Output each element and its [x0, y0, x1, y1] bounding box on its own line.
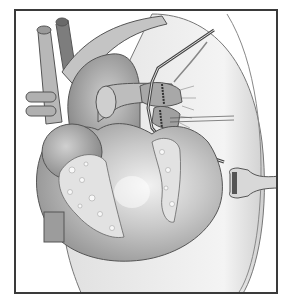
inferior-vena-cava — [44, 212, 64, 242]
illustration-frame — [14, 9, 278, 294]
heart-surgery-illustration — [16, 11, 278, 294]
